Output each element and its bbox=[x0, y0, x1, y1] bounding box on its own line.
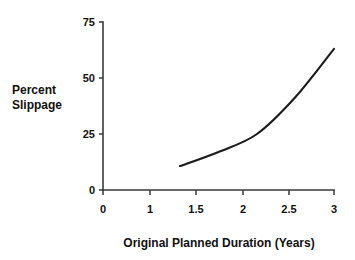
y-tick-label-75: 75 bbox=[83, 16, 95, 28]
chart-container: Percent Slippage 75 50 25 0 0 1 1.5 2 2.… bbox=[0, 0, 355, 260]
x-tick-label-1-5: 1.5 bbox=[188, 203, 203, 215]
y-axis-title-line2: Slippage bbox=[12, 98, 62, 112]
x-tick-label-1: 1 bbox=[147, 203, 153, 215]
x-tick-label-2: 2 bbox=[240, 203, 246, 215]
y-tick-label-50: 50 bbox=[83, 72, 95, 84]
y-tick-label-0: 0 bbox=[89, 184, 95, 196]
x-tick-label-0: 0 bbox=[100, 203, 106, 215]
slippage-line-chart: Percent Slippage 75 50 25 0 0 1 1.5 2 2.… bbox=[0, 0, 355, 260]
x-axis-title: Original Planned Duration (Years) bbox=[123, 236, 314, 250]
slippage-curve bbox=[180, 49, 334, 166]
y-axis-title-line1: Percent bbox=[12, 83, 56, 97]
x-tick-label-2-5: 2.5 bbox=[281, 203, 296, 215]
y-tick-label-25: 25 bbox=[83, 128, 95, 140]
x-tick-label-3: 3 bbox=[331, 203, 337, 215]
